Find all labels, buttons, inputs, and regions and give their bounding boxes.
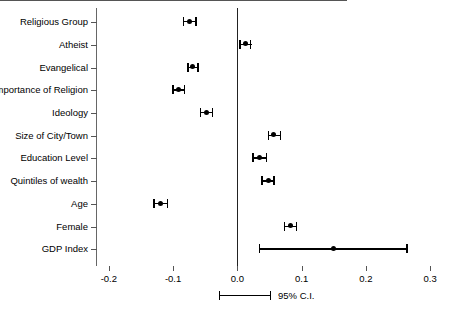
ci-cap-high [266, 153, 267, 162]
estimate-point-marker [257, 155, 262, 160]
x-tick-mark [302, 266, 303, 271]
ci-row [96, 39, 443, 51]
ci-row [96, 16, 443, 28]
ci-cap-low [200, 108, 201, 117]
ci-cap-high [167, 199, 168, 208]
ci-cap-low [239, 40, 240, 49]
ci-cap-low [172, 85, 173, 94]
x-tick-label: -0.2 [89, 273, 129, 284]
y-axis-category-label: Evangelical [39, 63, 88, 73]
ci-cap-high [184, 85, 185, 94]
y-axis-category-label: GDP Index [42, 244, 88, 254]
ci-row [96, 198, 443, 210]
x-tick-mark [237, 266, 238, 271]
ci-cap-low [252, 153, 253, 162]
ci-cap-low [284, 222, 285, 231]
x-tick-label: 0.2 [346, 273, 386, 284]
x-tick-mark [430, 266, 431, 271]
legend-line [219, 295, 271, 296]
legend-label: 95% C.I. [278, 289, 314, 302]
ci-cap-high [250, 40, 251, 49]
y-axis-category-label: Education Level [20, 153, 88, 163]
x-tick-label: 0.1 [282, 273, 322, 284]
x-tick-mark [366, 266, 367, 271]
ci-row [96, 107, 443, 119]
ci-cap-high [406, 244, 407, 253]
ci-row [96, 175, 443, 187]
coefficient-plot: Religious GroupAtheistEvangelicalImporta… [0, 0, 463, 318]
y-axis-category-label: Female [56, 222, 88, 232]
y-axis-category-label: Size of City/Town [15, 131, 88, 141]
y-axis-category-label: Atheist [59, 40, 88, 50]
ci-cap-high [195, 17, 196, 26]
ci-row [96, 243, 443, 255]
ci-row [96, 84, 443, 96]
ci-cap-high [280, 131, 281, 140]
ci-row [96, 130, 443, 142]
y-axis-category-label: Ideology [52, 108, 88, 118]
estimate-point-marker [190, 64, 195, 69]
ci-cap-high [197, 63, 198, 72]
legend-cap-right [270, 291, 271, 300]
ci-row [96, 221, 443, 233]
y-axis-category-label: Quintiles of wealth [10, 176, 88, 186]
ci-cap-high [212, 108, 213, 117]
ci-cap-low [183, 17, 184, 26]
x-tick-label: 0.3 [410, 273, 450, 284]
x-tick-label: 0.0 [217, 273, 257, 284]
legend: 95% C.I. [0, 289, 463, 307]
x-tick-mark [109, 266, 110, 271]
estimate-point-marker [331, 246, 336, 251]
ci-row [96, 62, 443, 74]
x-tick-mark [173, 266, 174, 271]
estimate-point-marker [187, 19, 192, 24]
estimate-point-marker [243, 41, 248, 46]
ci-cap-low [153, 199, 154, 208]
ci-cap-low [268, 131, 269, 140]
estimate-point-marker [158, 201, 163, 206]
x-tick-label: -0.1 [153, 273, 193, 284]
estimate-point-marker [271, 132, 276, 137]
ci-cap-high [273, 176, 274, 185]
estimate-point-marker [288, 223, 293, 228]
y-axis-category-label: Importance of Religion [0, 85, 88, 95]
ci-row [96, 152, 443, 164]
legend-cap-left [219, 291, 220, 300]
estimate-point-marker [266, 178, 271, 183]
plot-area [96, 8, 443, 266]
y-axis-labels: Religious GroupAtheistEvangelicalImporta… [0, 0, 88, 318]
y-axis-category-label: Religious Group [20, 17, 88, 27]
ci-cap-low [259, 244, 260, 253]
ci-cap-low [187, 63, 188, 72]
ci-cap-high [296, 222, 297, 231]
y-axis-category-label: Age [71, 199, 88, 209]
estimate-point-marker [176, 87, 181, 92]
estimate-point-marker [204, 110, 209, 115]
ci-cap-low [261, 176, 262, 185]
